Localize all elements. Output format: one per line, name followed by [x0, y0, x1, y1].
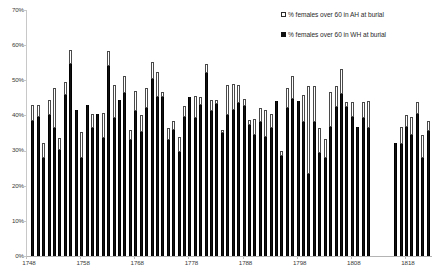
bar-column [64, 10, 67, 256]
bar-segment-wh [232, 110, 235, 256]
bar-segment-ah [280, 151, 283, 156]
bar-segment-ah [324, 139, 327, 158]
bar-segment-ah [421, 135, 424, 159]
bar-column [151, 10, 154, 256]
bar-segment-wh [421, 158, 424, 256]
bar-column [102, 10, 105, 256]
bar-segment-ah [42, 143, 45, 158]
bar-segment-wh [335, 107, 338, 256]
bar-column [248, 10, 251, 256]
bar-segment-ah [335, 86, 338, 108]
x-tick-label: 1788 [239, 259, 252, 266]
legend-item-wh: % females over 60 in WH at burial [281, 29, 437, 39]
bar-segment-ah [210, 100, 213, 112]
x-tick-label: 1758 [76, 259, 89, 266]
bar-segment-wh [367, 128, 370, 256]
bar-segment-ah [351, 102, 354, 117]
bar-column [80, 10, 83, 256]
bar-segment-wh [345, 107, 348, 256]
bar-segment-wh [31, 121, 34, 256]
bar-segment-ah [400, 127, 403, 144]
x-tick-label: 1818 [401, 259, 414, 266]
bar-segment-wh [286, 108, 289, 256]
bar-segment-ah [178, 137, 181, 153]
bar-segment-ah [427, 121, 430, 130]
bar-column [194, 10, 197, 256]
bar-segment-wh [151, 79, 154, 256]
bar-column [96, 10, 99, 256]
bar-segment-wh [75, 110, 78, 256]
bar-segment-wh [226, 115, 229, 256]
bar-segment-ah [237, 85, 240, 103]
bar-segment-wh [80, 158, 83, 256]
bar-segment-wh [161, 97, 164, 256]
bar-segment-wh [134, 111, 137, 256]
bar-segment-ah [134, 91, 137, 111]
bar-segment-wh [210, 111, 213, 256]
bar-segment-wh [253, 135, 256, 256]
bar-column [107, 10, 110, 256]
bar-column [167, 10, 170, 256]
bar-column [270, 10, 273, 256]
bar-segment-wh [129, 140, 132, 256]
bar-segment-ah [302, 95, 305, 121]
bar-column [156, 10, 159, 256]
bar-column [253, 10, 256, 256]
bar-segment-ah [199, 97, 202, 105]
bar-segment-wh [107, 66, 110, 256]
bar-segment-wh [237, 103, 240, 256]
bar-segment-ah [345, 102, 348, 107]
bar-segment-ah [102, 113, 105, 138]
x-tick-mark [351, 256, 352, 259]
bar-segment-wh [145, 108, 148, 256]
bar-segment-wh [113, 118, 116, 256]
bar-segment-ah [307, 86, 310, 175]
bar-segment-ah [226, 85, 229, 115]
bar-column [118, 10, 121, 256]
bar-segment-ah [64, 82, 67, 95]
bar-segment-wh [302, 122, 305, 256]
bar-segment-wh [340, 94, 343, 256]
legend-label-ah: % females over 60 in AH at burial [288, 11, 384, 18]
bar-segment-ah [243, 99, 246, 106]
bar-segment-ah [183, 106, 186, 118]
bar-segment-ah [156, 72, 159, 97]
bar-segment-wh [394, 143, 397, 256]
x-tick-mark [188, 256, 189, 259]
bar-segment-wh [318, 153, 321, 256]
legend-label-wh: % females over 60 in WH at burial [288, 31, 386, 38]
chart-legend: % females over 60 in AH at burial % fema… [281, 9, 437, 49]
bar-segment-wh [264, 137, 267, 256]
bar-segment-wh [270, 128, 273, 256]
bar-segment-ah [270, 114, 273, 127]
bar-segment-ah [248, 120, 251, 125]
bar-segment-wh [37, 117, 40, 256]
bar-segment-ah [48, 100, 51, 115]
bar-segment-ah [113, 85, 116, 118]
bar-segment-ah [340, 69, 343, 94]
bar-segment-wh [243, 106, 246, 256]
bar-segment-ah [291, 76, 294, 98]
bar-column [86, 10, 89, 256]
y-tick-label: 10% [0, 218, 24, 224]
bar-segment-ah [37, 105, 40, 117]
bar-segment-ah [140, 115, 143, 132]
bar-column [210, 10, 213, 256]
bar-segment-wh [427, 131, 430, 256]
bar-segment-wh [64, 95, 67, 256]
bar-segment-wh [69, 64, 72, 256]
bar-segment-wh [140, 132, 143, 256]
bar-column [145, 10, 148, 256]
bar-segment-ah [194, 96, 197, 118]
bar-column [91, 10, 94, 256]
bar-segment-wh [324, 158, 327, 256]
bar-segment-ah [69, 50, 72, 63]
bar-segment-ah [313, 86, 316, 122]
bar-segment-ah [123, 76, 126, 94]
bar-segment-ah [107, 51, 110, 65]
bar-column [161, 10, 164, 256]
bar-segment-wh [351, 117, 354, 256]
x-tick-label: 1778 [185, 259, 198, 266]
x-tick-label: 1808 [347, 259, 360, 266]
bar-segment-ah [367, 101, 370, 127]
